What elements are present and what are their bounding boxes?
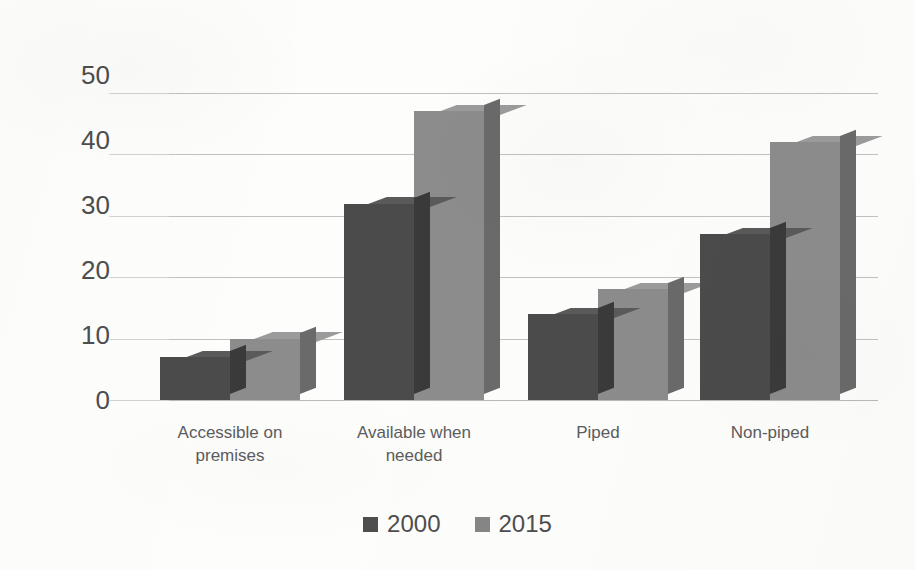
bar-2000-available-when-needed [344, 204, 414, 400]
bar-2000-accessible-on-premises [160, 357, 230, 400]
x-axis-category-labels: Accessible onpremisesAvailable whenneede… [108, 422, 898, 484]
y-tick-label-40: 40 [46, 127, 110, 153]
bar-2000-piped [528, 314, 598, 400]
bars-layer [108, 20, 898, 420]
bar-face-facet [344, 204, 414, 400]
y-tick-label-0: 0 [46, 387, 110, 413]
plot-area [108, 20, 898, 420]
legend-label: 2015 [499, 512, 552, 536]
bar-chart-figure: Percentage 50403020100 Accessible onprem… [0, 0, 915, 570]
y-axis-tick-labels: 50403020100 [46, 0, 110, 570]
bar-face-facet [700, 234, 770, 400]
legend-item-2015[interactable]: 2015 [475, 512, 552, 536]
category-label-line: needed [304, 445, 524, 468]
bar-side-facet [414, 191, 430, 394]
bar-side-facet [770, 222, 786, 394]
bar-side-facet [484, 99, 500, 394]
bar-2000-non-piped [700, 234, 770, 400]
bar-face-facet [528, 314, 598, 400]
y-tick-label-10: 10 [46, 322, 110, 348]
legend-swatch-icon [475, 517, 490, 532]
chart-legend: 20002015 [0, 512, 915, 536]
bar-side-facet [840, 130, 856, 394]
legend-item-2000[interactable]: 2000 [363, 512, 440, 536]
legend-swatch-icon [363, 517, 378, 532]
bar-side-facet [230, 345, 246, 394]
x-category-label-non-piped: Non-piped [660, 422, 880, 445]
bar-face-facet [160, 357, 230, 400]
bar-side-facet [668, 277, 684, 394]
legend-label: 2000 [387, 512, 440, 536]
category-label-line: Non-piped [660, 422, 880, 445]
bar-side-facet [598, 302, 614, 394]
y-tick-label-30: 30 [46, 192, 110, 218]
bar-side-facet [300, 326, 316, 394]
y-tick-label-20: 20 [46, 257, 110, 283]
y-tick-label-50: 50 [46, 62, 110, 88]
